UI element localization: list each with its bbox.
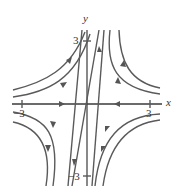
arrow-ul-2 <box>60 82 67 88</box>
trajectory-lr-2 <box>103 120 160 186</box>
trajectory-uc <box>92 30 104 186</box>
trajectory-ur-2 <box>119 30 160 88</box>
arrow-ll-1 <box>50 121 56 128</box>
arrow-center-up <box>97 46 102 52</box>
x-tick-3: 3 <box>146 107 152 119</box>
phase-portrait <box>0 0 180 194</box>
y-axis-label: y <box>83 12 88 24</box>
x-tick-neg3: −3 <box>13 107 25 119</box>
trajectory-ur-1 <box>109 30 160 94</box>
trajectory-ll-2 <box>13 122 48 186</box>
x-axis-label: x <box>166 96 171 108</box>
arrow-lr-1 <box>105 126 110 132</box>
separatrix-line <box>72 30 99 186</box>
y-tick-3: 3 <box>73 34 79 46</box>
arrow-x-right <box>59 101 65 107</box>
arrow-x-left <box>114 101 120 107</box>
y-tick-neg3: −3 <box>68 170 80 182</box>
